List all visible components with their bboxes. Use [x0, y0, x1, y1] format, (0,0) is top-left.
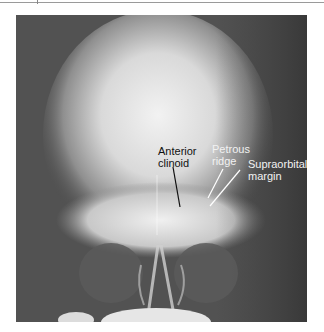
label-anterior-clinoid-line1: Anterior [158, 145, 197, 157]
label-petrous-ridge-line1: Petrous [212, 143, 250, 155]
top-rule [0, 2, 324, 3]
label-supraorbital-margin-line2: margin [248, 170, 307, 182]
label-supraorbital-margin: Supraorbital margin [248, 158, 307, 182]
label-petrous-ridge: Petrous ridge [212, 143, 250, 167]
label-anterior-clinoid-line2: clinoid [158, 157, 197, 169]
label-petrous-ridge-line2: ridge [212, 155, 250, 167]
label-anterior-clinoid: Anterior clinoid [158, 145, 197, 169]
top-tick [37, 0, 38, 4]
xray-image: Anterior clinoid Petrous ridge Supraorbi… [16, 15, 307, 322]
label-supraorbital-margin-line1: Supraorbital [248, 158, 307, 170]
